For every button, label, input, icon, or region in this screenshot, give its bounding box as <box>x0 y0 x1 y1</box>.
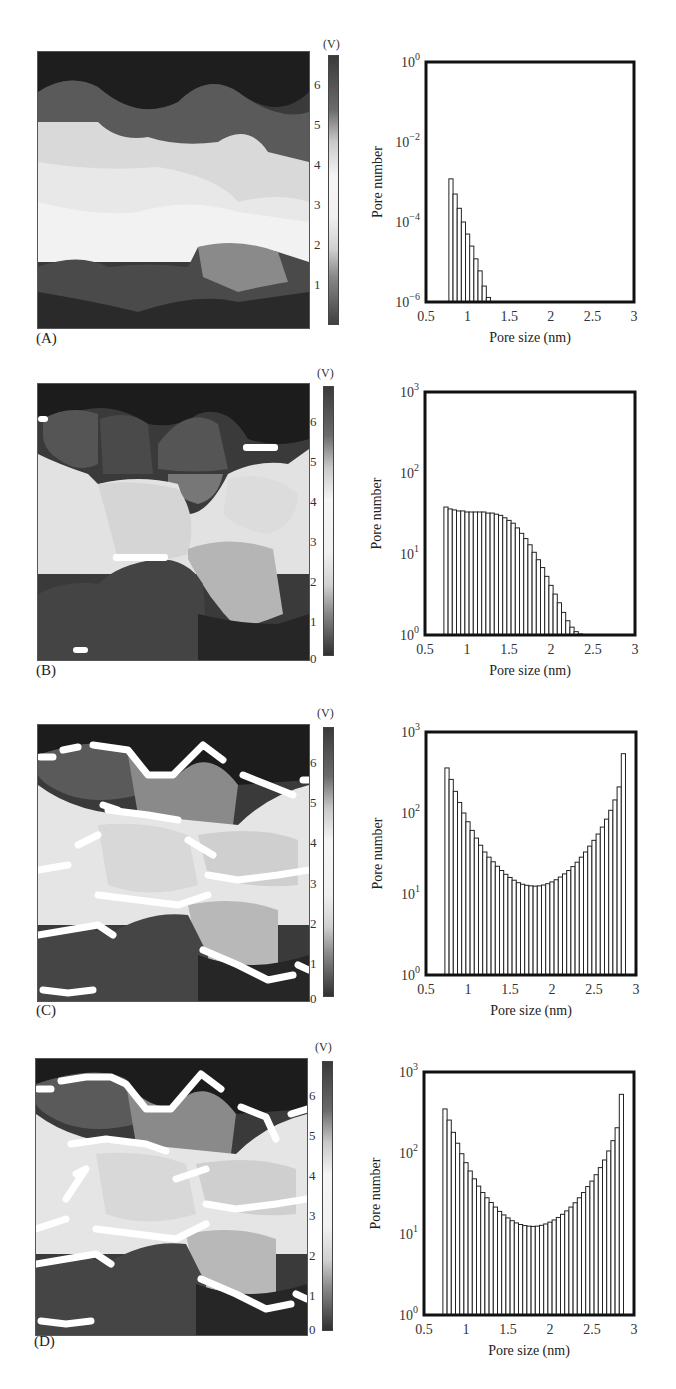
panel-d: (V) 6 5 4 3 2 1 0 (D) 0.511.522.53100101… <box>0 1020 676 1360</box>
histogram-bar <box>491 862 495 975</box>
histogram-bar <box>512 880 516 975</box>
histogram-bar <box>482 286 486 302</box>
histogram-bar <box>500 871 504 975</box>
panel-c: (V) 6 5 4 3 2 1 0 (C) 0.511.522.53100101… <box>0 680 676 1020</box>
histogram-bar <box>451 1132 455 1315</box>
histogram-bar <box>584 852 588 975</box>
histogram-bar <box>557 603 561 635</box>
x-tick-label: 1.5 <box>501 982 519 997</box>
histogram-bar <box>523 1226 527 1315</box>
histogram-bar <box>554 880 558 975</box>
x-tick-label: 1 <box>463 1322 470 1337</box>
histogram-bar <box>552 1220 556 1315</box>
x-tick-label: 2 <box>549 982 556 997</box>
histogram-bar <box>477 1186 481 1315</box>
histogram-bar <box>478 271 482 302</box>
histogram-bar <box>615 1128 619 1315</box>
histogram-bar <box>479 845 483 975</box>
y-tick-label: 103 <box>399 1061 418 1080</box>
histogram-bar <box>458 802 462 975</box>
x-tick-label: 1.5 <box>500 309 518 324</box>
histogram-bar <box>571 867 575 975</box>
y-tick-label: 101 <box>399 1223 418 1242</box>
y-tick-label: 100 <box>401 51 420 70</box>
panel-a: (V) 6 5 4 3 2 1 (A) 0.511.522.5310−610−4… <box>0 0 676 340</box>
histogram-bar <box>562 612 566 635</box>
histogram-svg: 0.511.522.53100101102103Pore size (nm)Po… <box>0 680 676 1050</box>
histogram-bar <box>443 1109 447 1315</box>
histogram-bar <box>506 1218 510 1315</box>
histogram-bar <box>546 884 550 975</box>
histogram-bar <box>544 1224 548 1315</box>
histogram-bar <box>516 883 520 975</box>
x-tick-label: 2 <box>548 642 555 657</box>
histogram-bar <box>548 1222 552 1315</box>
histogram-bar <box>474 259 478 302</box>
histogram-bar <box>619 1094 623 1315</box>
histogram-bar <box>542 885 546 975</box>
histogram-bar <box>532 552 536 635</box>
histogram-bar <box>449 779 453 975</box>
histogram-bar <box>482 512 486 635</box>
x-tick-label: 1 <box>465 982 472 997</box>
x-axis-label: Pore size (nm) <box>490 1003 572 1019</box>
y-tick-label: 10−4 <box>395 211 420 230</box>
histogram-bar <box>469 512 473 635</box>
histogram-bar <box>490 513 494 635</box>
histogram-bar <box>607 1151 611 1315</box>
histogram-bar <box>478 512 482 635</box>
histogram-bar <box>575 862 579 975</box>
histogram-bar <box>487 857 491 975</box>
x-tick-label: 1 <box>464 309 471 324</box>
histogram-bar <box>483 852 487 975</box>
histogram-bar <box>617 787 621 975</box>
x-tick-label: 2.5 <box>583 1322 601 1337</box>
histogram-bar <box>528 545 532 635</box>
histogram-bar <box>470 830 474 975</box>
histogram-bar <box>465 512 469 635</box>
histogram-bar <box>545 576 549 635</box>
histogram-bar <box>565 1211 569 1315</box>
histogram-bar <box>461 222 465 302</box>
histogram-bar <box>464 1163 468 1315</box>
histogram-bar <box>621 754 625 975</box>
x-tick-label: 2.5 <box>585 982 603 997</box>
histogram-bar <box>474 838 478 975</box>
histogram-bar <box>485 1198 489 1315</box>
histogram-bar <box>515 528 519 635</box>
histogram-bar <box>453 791 457 975</box>
panel-b: (V) 6 5 4 3 2 1 0 (B) 0.511.522.53100101… <box>0 340 676 680</box>
histogram-bar <box>520 533 524 635</box>
histogram-bar <box>498 1211 502 1315</box>
histogram-bar <box>613 800 617 975</box>
y-tick-label: 10−6 <box>395 291 420 310</box>
histogram-bar <box>553 594 557 635</box>
histogram-bar <box>525 885 529 975</box>
x-tick-label: 3 <box>633 982 640 997</box>
y-axis-label: Pore number <box>370 817 385 889</box>
histogram-bar <box>511 523 515 635</box>
histogram-bar <box>598 1168 602 1315</box>
x-tick-label: 0.5 <box>417 982 435 997</box>
histogram-bar <box>579 857 583 975</box>
y-axis-label: Pore number <box>369 477 384 549</box>
x-tick-label: 2.5 <box>584 309 602 324</box>
histogram-bar <box>531 1226 535 1315</box>
histogram-svg: 0.511.522.53100101102103Pore size (nm)Po… <box>0 1020 676 1389</box>
histogram-bar <box>481 1193 485 1315</box>
histogram-bar <box>536 560 540 635</box>
histogram-bar <box>586 1187 590 1315</box>
histogram-bar <box>456 1143 460 1315</box>
histogram-bar <box>486 513 490 635</box>
x-tick-label: 1.5 <box>499 1322 517 1337</box>
y-tick-label: 102 <box>401 802 420 821</box>
x-axis-label: Pore size (nm) <box>489 663 571 679</box>
histogram-bar <box>569 1207 573 1315</box>
y-tick-label: 10−2 <box>395 131 420 150</box>
histogram-bar <box>519 1225 523 1315</box>
x-tick-label: 0.5 <box>417 309 435 324</box>
histogram-bar <box>466 234 470 302</box>
y-tick-label: 100 <box>400 624 419 643</box>
y-tick-label: 103 <box>400 381 419 400</box>
histogram-bar <box>605 819 609 975</box>
